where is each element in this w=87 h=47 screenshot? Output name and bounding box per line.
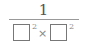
input-box-2[interactable]	[50, 24, 67, 41]
exponent-2: 2	[69, 23, 74, 31]
times-operator: ×	[38, 28, 47, 39]
numerator: 1	[0, 3, 87, 18]
fraction-bar	[9, 19, 79, 20]
exponent-1: 2	[32, 23, 37, 31]
input-box-1[interactable]	[13, 24, 30, 41]
